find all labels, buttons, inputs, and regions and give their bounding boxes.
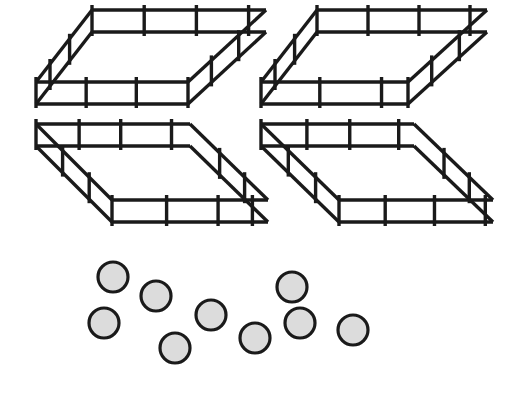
rail-left-lower — [261, 146, 339, 222]
rail-left-lower — [36, 146, 112, 222]
rail-right-lower — [408, 32, 487, 104]
illustration-canvas: 4 9 Fence pens and counters — [0, 0, 516, 403]
rail-right-upper — [414, 124, 493, 200]
pen-bottom-right — [261, 119, 493, 226]
token-8 — [285, 308, 315, 338]
rail-right-upper — [188, 10, 266, 82]
rail-left-lower — [261, 32, 317, 104]
token-7 — [277, 272, 307, 302]
fence-and-counters-drawing — [0, 0, 516, 403]
counters-group — [89, 262, 368, 363]
token-9 — [338, 315, 368, 345]
pen-bottom-left — [36, 119, 268, 226]
rail-left-lower — [36, 32, 92, 104]
token-5 — [160, 333, 190, 363]
rail-right-lower — [414, 146, 493, 222]
token-4 — [196, 300, 226, 330]
rail-right-lower — [190, 146, 268, 222]
rail-right-lower — [188, 32, 266, 104]
rail-left-upper — [261, 124, 339, 200]
rail-left-upper — [36, 10, 92, 82]
token-6 — [240, 323, 270, 353]
rail-left-upper — [36, 124, 112, 200]
token-2 — [141, 281, 171, 311]
pens-group — [36, 5, 493, 226]
pen-top-left — [36, 5, 266, 108]
token-1 — [98, 262, 128, 292]
pen-top-right — [261, 5, 487, 108]
rail-left-upper — [261, 10, 317, 82]
token-3 — [89, 308, 119, 338]
rail-right-upper — [190, 124, 268, 200]
